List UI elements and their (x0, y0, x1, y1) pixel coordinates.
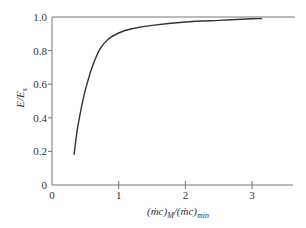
y-tick-label: 0 (42, 179, 48, 191)
x-axis-label: (ṁc)M/(ṁc)min (147, 205, 209, 220)
x-ticks: 0123 (49, 181, 255, 201)
axes (52, 17, 295, 185)
x-tick-label: 3 (249, 189, 255, 201)
y-tick-label: 0.4 (33, 112, 47, 124)
series-line (74, 19, 262, 155)
y-tick-label: 0.8 (33, 45, 47, 57)
y-tick-label: 1.0 (33, 11, 47, 23)
y-tick-label: 0.2 (33, 145, 47, 157)
x-tick-label: 0 (49, 189, 55, 201)
chart: 00.20.40.60.81.0 0123 E/Es (ṁc)M/(ṁc)min (0, 0, 306, 228)
y-ticks: 00.20.40.60.81.0 (33, 11, 52, 191)
y-axis-label: E/Es (14, 88, 29, 109)
x-tick-label: 2 (183, 189, 189, 201)
y-tick-label: 0.6 (33, 78, 47, 90)
x-tick-label: 1 (116, 189, 122, 201)
